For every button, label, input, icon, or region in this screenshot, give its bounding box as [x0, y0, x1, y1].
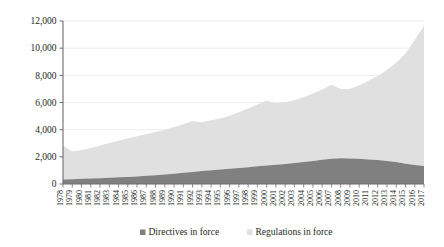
x-tick-label: 2005: [306, 190, 315, 206]
x-tick-label: 1999: [250, 190, 259, 206]
x-tick-label: 2000: [260, 190, 269, 206]
x-tick-label: 2016: [408, 190, 417, 206]
y-tick-label: 8,000: [35, 71, 57, 81]
x-tick-label: 1984: [112, 190, 121, 206]
x-tick-label: 1983: [102, 190, 111, 206]
x-tick-label: 1998: [241, 190, 250, 206]
legend-label: Regulations in force: [256, 227, 333, 237]
chart-legend: Directives in forceRegulations in force: [140, 227, 333, 237]
x-tick-label: 2011: [361, 190, 370, 206]
x-tick-label: 2010: [352, 190, 361, 206]
y-tick-label: 6,000: [35, 98, 57, 108]
y-tick-label: 4,000: [35, 125, 57, 135]
x-tick-label: 2007: [324, 190, 333, 206]
chart-canvas: 02,0004,0006,0008,00010,00012,000 197819…: [0, 0, 444, 247]
stacked-area-chart: 02,0004,0006,0008,00010,00012,000 197819…: [0, 0, 444, 247]
y-tick-label: 10,000: [30, 43, 56, 53]
y-axis-tick-labels: 02,0004,0006,0008,00010,00012,000: [30, 16, 56, 189]
x-tick-label: 2006: [315, 190, 324, 206]
x-tick-label: 1981: [84, 190, 93, 206]
x-tick-label: 1978: [56, 190, 65, 206]
x-tick-label: 1991: [176, 190, 185, 206]
x-tick-label: 2003: [287, 190, 296, 206]
x-tick-label: 1990: [167, 190, 176, 206]
x-tick-label: 1994: [204, 190, 213, 206]
x-tick-label: 1993: [195, 190, 204, 206]
x-tick-label: 2014: [389, 190, 398, 206]
x-tick-label: 1980: [75, 190, 84, 206]
x-tick-label: 1986: [130, 190, 139, 206]
x-tick-label: 1992: [186, 190, 195, 206]
area-series-group: [63, 26, 424, 184]
x-tick-label: 2013: [380, 190, 389, 206]
x-tick-label: 2004: [297, 190, 306, 206]
legend-swatch: [247, 230, 253, 236]
x-tick-label: 1997: [232, 190, 241, 206]
x-tick-label: 1979: [65, 190, 74, 206]
y-tick-label: 2,000: [35, 152, 57, 162]
x-tick-label: 2015: [398, 190, 407, 206]
x-tick-label: 1982: [93, 190, 102, 206]
x-tick-label: 2012: [371, 190, 380, 206]
x-tick-label: 1995: [213, 190, 222, 206]
y-tick-label: 12,000: [30, 16, 56, 26]
x-tick-label: 1989: [158, 190, 167, 206]
x-tick-label: 1987: [139, 190, 148, 206]
x-tick-label: 1985: [121, 190, 130, 206]
x-axis-tick-labels: 1978197919801981198219831984198519861987…: [56, 190, 426, 206]
x-tick-label: 2002: [278, 190, 287, 206]
x-tick-label: 1996: [223, 190, 232, 206]
x-tick-label: 2017: [417, 190, 426, 206]
x-tick-label: 2009: [343, 190, 352, 206]
legend-swatch: [140, 230, 146, 236]
x-tick-label: 2008: [334, 190, 343, 206]
y-tick-label: 0: [52, 179, 57, 189]
legend-label: Directives in force: [149, 227, 220, 237]
x-tick-label: 2001: [269, 190, 278, 206]
x-tick-label: 1988: [149, 190, 158, 206]
